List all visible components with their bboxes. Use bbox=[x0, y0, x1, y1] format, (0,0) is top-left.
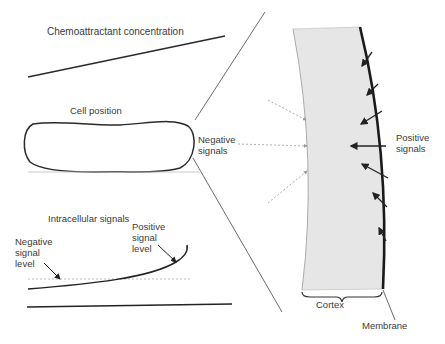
positive-signals-label: Positive signals bbox=[396, 132, 429, 154]
negative-signal-level-label: Negative signal level bbox=[15, 236, 53, 269]
concentration-line bbox=[28, 36, 225, 77]
intracellular-signals-title: Intracellular signals bbox=[48, 213, 129, 224]
negative-signals-label: Negative signals bbox=[198, 134, 236, 156]
zoom-connector-top bbox=[195, 12, 265, 120]
membrane-pointer bbox=[383, 290, 395, 320]
cell-outline bbox=[24, 122, 194, 172]
cortex-label: Cortex bbox=[316, 299, 344, 310]
zoom-connector-bottom bbox=[193, 158, 282, 312]
membrane-label: Membrane bbox=[362, 320, 407, 331]
bottom-baseline bbox=[27, 304, 232, 307]
negative-signal-arrows bbox=[238, 100, 307, 203]
positive-signal-level-label: Positive signal level bbox=[132, 221, 165, 254]
cortex-region bbox=[293, 27, 384, 290]
cell-position-title: Cell position bbox=[70, 105, 122, 116]
diagram-canvas bbox=[0, 0, 445, 344]
chemoattractant-title: Chemoattractant concentration bbox=[47, 26, 184, 37]
